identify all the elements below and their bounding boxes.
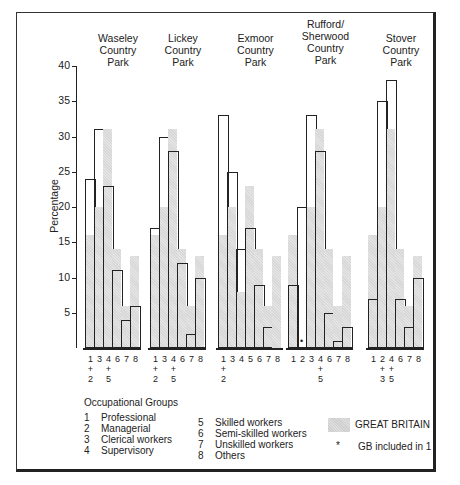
x-tick-label: 3 xyxy=(228,354,237,364)
gb-marker-label: GB included in 1 xyxy=(358,441,431,454)
y-tick-label: 40 xyxy=(44,59,70,71)
park-title: ExmoorCountryPark xyxy=(216,32,296,68)
x-tick-label: 8 xyxy=(414,354,423,364)
x-tick-label: 8 xyxy=(273,354,282,364)
x-tick-label: 7 xyxy=(187,354,196,364)
x-tick-label: 6 xyxy=(396,354,405,364)
y-tick xyxy=(72,313,76,314)
x-tick-label: + xyxy=(86,364,95,374)
x-tick-label: + xyxy=(169,364,178,374)
x-tick-label: 1 xyxy=(369,354,378,364)
x-tick-label: 3 xyxy=(307,354,316,364)
x-tick-label: + xyxy=(378,364,387,374)
y-axis xyxy=(76,66,77,348)
panel-baseline xyxy=(286,348,353,350)
x-tick-label: + xyxy=(151,364,160,374)
x-tick-label: 6 xyxy=(113,354,122,364)
x-tick-label: + xyxy=(104,364,113,374)
x-tick-label: 7 xyxy=(264,354,273,364)
data-bar xyxy=(195,278,206,349)
x-tick-label: 6 xyxy=(255,354,264,364)
x-tick-label: 2 xyxy=(86,374,95,384)
x-tick-label: + xyxy=(387,364,396,374)
x-tick-label: 2 xyxy=(151,374,160,384)
x-tick-label: 2 xyxy=(298,354,307,364)
x-tick-label: 2 xyxy=(378,354,387,364)
y-tick-label: 30 xyxy=(44,130,70,142)
x-tick-label: 6 xyxy=(178,354,187,364)
x-tick-label: 1 xyxy=(86,354,95,364)
x-tick-label: 4 xyxy=(316,354,325,364)
park-title: StoverCountryPark xyxy=(361,32,441,68)
x-tick-label: 5 xyxy=(104,374,113,384)
panel-baseline xyxy=(83,348,141,350)
y-tick xyxy=(72,278,76,279)
x-tick-label: 7 xyxy=(334,354,343,364)
x-tick-label: 7 xyxy=(122,354,131,364)
legend-group-label: Supervisory xyxy=(101,445,154,458)
y-tick xyxy=(72,172,76,173)
x-tick-label: 5 xyxy=(169,374,178,384)
x-tick-label: 5 xyxy=(246,354,255,364)
y-tick xyxy=(72,101,76,102)
panel-baseline xyxy=(366,348,424,350)
y-tick-label: 25 xyxy=(44,165,70,177)
x-tick-label: 3 xyxy=(95,354,104,364)
data-bar xyxy=(130,306,141,348)
gb-legend-label: GREAT BRITAIN xyxy=(355,419,430,432)
panel-baseline xyxy=(216,348,283,350)
y-tick xyxy=(72,137,76,138)
legend-group-label: Others xyxy=(215,450,245,463)
x-tick-label: 7 xyxy=(405,354,414,364)
x-tick-label: 8 xyxy=(196,354,205,364)
x-tick-label: 4 xyxy=(169,354,178,364)
y-tick-label: 20 xyxy=(44,200,70,212)
x-tick-label: 5 xyxy=(316,374,325,384)
x-tick-label: 1 xyxy=(289,354,298,364)
x-tick-label: 3 xyxy=(378,374,387,384)
y-tick xyxy=(72,242,76,243)
x-tick-label: 5 xyxy=(387,374,396,384)
x-tick-label: 1 xyxy=(151,354,160,364)
panel-baseline xyxy=(148,348,206,350)
park-title: Rufford/SherwoodCountryPark xyxy=(286,18,366,66)
x-tick-label: 3 xyxy=(160,354,169,364)
y-tick-label: 15 xyxy=(44,235,70,247)
x-tick-label: 4 xyxy=(104,354,113,364)
gb-bar xyxy=(272,256,281,348)
legend-group-number: 8 xyxy=(198,450,204,463)
data-bar xyxy=(342,327,353,348)
gb-included-marker: • xyxy=(300,336,303,346)
y-tick-label: 10 xyxy=(44,271,70,283)
x-tick-label: 4 xyxy=(387,354,396,364)
y-tick-label: 35 xyxy=(44,94,70,106)
data-bar xyxy=(413,278,424,349)
x-tick-label: 6 xyxy=(325,354,334,364)
x-tick-label: 8 xyxy=(131,354,140,364)
park-title: LickeyCountryPark xyxy=(143,32,223,68)
y-tick-label: 5 xyxy=(44,306,70,318)
legend-group-number: 4 xyxy=(84,445,90,458)
x-tick-label: 8 xyxy=(343,354,352,364)
y-tick xyxy=(72,66,76,67)
y-tick xyxy=(72,207,76,208)
x-tick-label: 2 xyxy=(219,374,228,384)
x-tick-label: 1 xyxy=(219,354,228,364)
x-tick-label: 4 xyxy=(237,354,246,364)
gb-swatch xyxy=(328,418,350,432)
gb-marker-symbol: * xyxy=(336,440,340,453)
x-tick-label: + xyxy=(316,364,325,374)
x-tick-label: + xyxy=(219,364,228,374)
legend-heading: Occupational Groups xyxy=(84,397,178,410)
